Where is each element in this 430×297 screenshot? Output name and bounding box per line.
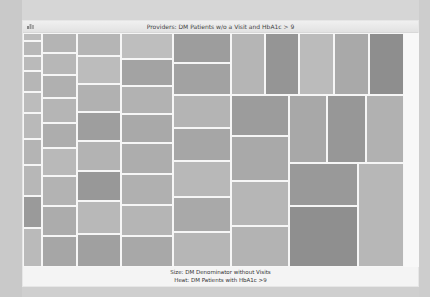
desktop-background-right [419, 0, 430, 297]
treemap-tile[interactable] [42, 206, 77, 236]
treemap-tile[interactable] [23, 139, 42, 165]
treemap-tile[interactable] [289, 163, 358, 206]
treemap-tile[interactable] [77, 141, 121, 171]
treemap-tile[interactable] [42, 75, 77, 98]
treemap-tile[interactable] [23, 165, 42, 196]
treemap-tile[interactable] [77, 112, 121, 141]
treemap-tile[interactable] [265, 33, 299, 95]
treemap-tile[interactable] [23, 228, 42, 267]
treemap-tile[interactable] [231, 226, 289, 267]
treemap-tile[interactable] [289, 206, 358, 267]
treemap-tile[interactable] [121, 236, 173, 267]
treemap-tile[interactable] [121, 114, 173, 143]
treemap-tile[interactable] [173, 33, 231, 63]
treemap-tile[interactable] [42, 123, 77, 148]
treemap-tile[interactable] [231, 181, 289, 226]
treemap-tile[interactable] [369, 33, 404, 95]
treemap-tile[interactable] [327, 95, 366, 163]
treemap-tile[interactable] [42, 33, 77, 53]
treemap-tile[interactable] [121, 86, 173, 114]
treemap-tile[interactable] [77, 33, 121, 56]
treemap-tile[interactable] [23, 113, 42, 139]
treemap-window: Providers: DM Patients w/o a Visit and H… [22, 20, 419, 287]
treemap-tile[interactable] [231, 33, 265, 95]
treemap-tile[interactable] [23, 56, 42, 71]
treemap-tile[interactable] [23, 41, 42, 56]
treemap-tile[interactable] [121, 33, 173, 59]
treemap-tile[interactable] [121, 174, 173, 205]
treemap-tile[interactable] [23, 33, 42, 41]
treemap-tile[interactable] [23, 196, 42, 228]
treemap-tile[interactable] [334, 33, 369, 95]
treemap-tile[interactable] [231, 95, 289, 136]
treemap-plot-area [23, 33, 419, 267]
treemap-tile[interactable] [366, 95, 404, 163]
treemap-tile[interactable] [42, 236, 77, 267]
treemap-tile[interactable] [173, 95, 231, 128]
treemap-tile[interactable] [173, 232, 231, 267]
treemap-tile[interactable] [289, 95, 327, 163]
treemap-tile[interactable] [358, 163, 404, 267]
treemap-tile[interactable] [231, 136, 289, 181]
treemap-tile[interactable] [173, 161, 231, 197]
treemap-tile[interactable] [173, 128, 231, 161]
treemap-tile[interactable] [77, 201, 121, 234]
treemap-tile[interactable] [299, 33, 334, 95]
treemap-tile[interactable] [77, 56, 121, 84]
treemap-tile[interactable] [42, 53, 77, 75]
treemap-tile[interactable] [173, 63, 231, 95]
window-title: Providers: DM Patients w/o a Visit and H… [23, 22, 418, 31]
treemap-tile[interactable] [23, 92, 42, 113]
window-titlebar[interactable]: Providers: DM Patients w/o a Visit and H… [23, 21, 418, 33]
treemap-tile[interactable] [42, 176, 77, 206]
desktop-background-top [0, 0, 430, 20]
treemap-tile[interactable] [23, 71, 42, 92]
desktop-background-left [0, 0, 22, 297]
treemap-caption: Size: DM Denominator without Visits Heat… [23, 268, 418, 284]
treemap-tile[interactable] [173, 197, 231, 232]
treemap-tile[interactable] [121, 205, 173, 236]
treemap-tile[interactable] [121, 59, 173, 86]
treemap-tile[interactable] [77, 234, 121, 267]
heat-measure-label: Heat: DM Patients with HbA1c >9 [23, 276, 418, 284]
treemap-tile[interactable] [121, 143, 173, 174]
treemap-tile[interactable] [42, 148, 77, 176]
treemap-tile[interactable] [42, 98, 77, 123]
treemap-tile[interactable] [77, 84, 121, 112]
size-measure-label: Size: DM Denominator without Visits [23, 268, 418, 276]
treemap-tile[interactable] [77, 171, 121, 201]
